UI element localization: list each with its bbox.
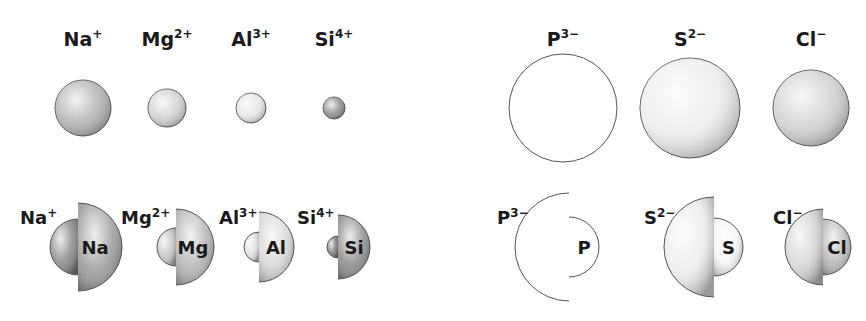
comparison-mg: Mg — [157, 209, 214, 285]
comparison-na: Na — [50, 203, 122, 291]
label-s-ion-top: S2− — [674, 27, 706, 50]
comparison-s: S — [664, 197, 743, 297]
atom-label-cl: Cl — [827, 237, 846, 258]
label-na-ion-bottom: Na+ — [20, 206, 57, 228]
atom-label-s: S — [722, 237, 735, 258]
atom-label-mg: Mg — [178, 237, 209, 258]
label-si-ion-bottom: Si4+ — [297, 206, 335, 228]
label-na-ion-top: Na+ — [64, 27, 103, 50]
label-al-ion-top: Al3+ — [231, 27, 271, 50]
sphere-al-ion — [236, 93, 266, 123]
sphere-cl-ion — [773, 70, 849, 146]
diagram-canvas: Na+ Mg2+ Al3+ Si4+ P3− S2− Cl− NaMgAlSiP… — [0, 0, 866, 321]
ion-spheres-row — [55, 54, 849, 162]
label-mg-ion-top: Mg2+ — [142, 27, 193, 50]
top-labels: Na+ Mg2+ Al3+ Si4+ P3− S2− Cl− — [64, 27, 827, 50]
sphere-p-ion — [509, 54, 617, 162]
label-al-ion-bottom: Al3+ — [219, 206, 258, 228]
sphere-mg-ion — [148, 89, 186, 127]
label-p-ion-top: P3− — [547, 27, 579, 50]
atom-label-si: Si — [344, 237, 363, 258]
sphere-s-ion — [640, 58, 740, 158]
atom-label-al: Al — [266, 237, 286, 258]
sphere-na-ion — [55, 80, 111, 136]
comparison-cl: Cl — [785, 209, 851, 285]
label-cl-ion-top: Cl− — [796, 27, 827, 50]
comparison-si: Si — [327, 215, 370, 279]
label-mg-ion-bottom: Mg2+ — [121, 206, 170, 228]
atom-label-p: P — [577, 237, 590, 258]
label-si-ion-top: Si4+ — [315, 27, 354, 50]
comparison-al: Al — [244, 212, 294, 282]
atom-label-na: Na — [81, 237, 108, 258]
sphere-si-ion — [323, 97, 345, 119]
ionic-radius-diagram: Na+ Mg2+ Al3+ Si4+ P3− S2− Cl− NaMgAlSiP… — [0, 0, 866, 321]
